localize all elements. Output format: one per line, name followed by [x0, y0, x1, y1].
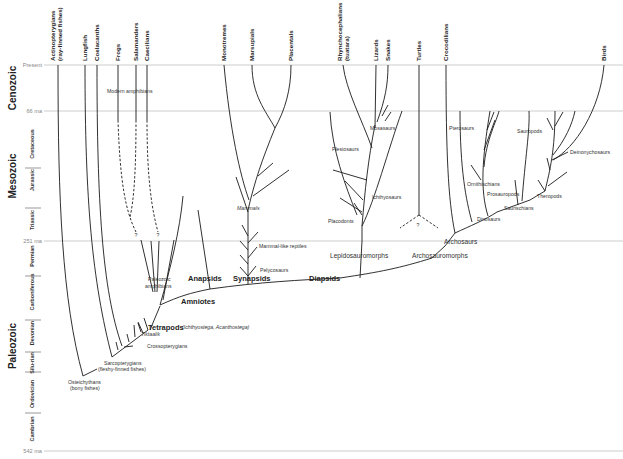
period-permian: Permian [29, 245, 35, 266]
label-plesiosaurs: Plesiosaurs [332, 146, 359, 152]
label-sauropods: Sauropods [517, 128, 542, 134]
tick-present: Present [23, 62, 43, 68]
tip-turtles: Turtles [415, 40, 422, 61]
label-prosauropods: Prosauropods [487, 191, 520, 197]
tip-lungfish: Lungfish [81, 35, 88, 61]
major-clade-labels: Tetrapods Amniotes Anapsids Synapsids Di… [148, 274, 340, 332]
lepidosaur-branches [330, 65, 402, 278]
question-mark-caecilians: ? [157, 232, 160, 238]
question-mark-frogs: ? [135, 232, 138, 238]
tetrapods-annotation: (Ichthyostega, Acanthostega) [182, 324, 250, 330]
era-paleozoic: Paleozoic [7, 323, 18, 370]
tip-birds: Birds [600, 45, 607, 61]
label-pterosaurs: Pterosaurs [449, 125, 474, 131]
clade-lepidosauromorphs: Lepidosauromorphs [330, 252, 389, 260]
tip-marsupials: Marsupials [248, 28, 255, 61]
clade-diapsids: Diapsids [309, 274, 340, 283]
label-pelycosaurs: Pelycosaurs [260, 267, 289, 273]
clade-archosauromorphs: Archosauromorphs [412, 252, 468, 260]
fish-branches [58, 65, 148, 376]
clade-amniotes: Amniotes [181, 297, 215, 306]
label-modern-amphibians: Modern amphibians [107, 88, 153, 94]
archosaur-branches [432, 65, 604, 258]
phylogeny-diagram: Present 66 ma 251 ma 542 ma Cenozoic Mes… [0, 0, 623, 459]
era-cenozoic: Cenozoic [7, 65, 18, 110]
tip-coelacanths: Coelacanths [93, 24, 100, 61]
label-ichthyosaurs: Ichthyosaurs [372, 194, 402, 200]
tip-labels: Actinopterygians (ray-finned fishes) Lun… [49, 2, 607, 61]
period-ordovician: Ordovician [29, 380, 35, 408]
tip-actinopterygians-sub: (ray-finned fishes) [56, 7, 63, 61]
period-triassic: Triassic [29, 210, 35, 230]
label-mammal-like-reptiles: Mammal-like reptiles [259, 243, 307, 249]
clade-archosaurs: Archosaurs [444, 238, 478, 245]
label-theropods: Theropods [537, 193, 562, 199]
period-carboniferous: Carboniferous [29, 274, 35, 311]
era-mesozoic: Mesozoic [7, 153, 18, 198]
period-cambrian: Cambrian [29, 417, 35, 442]
period-labels: Cretaceous Jurassic Triassic Permian Car… [29, 129, 35, 441]
label-fleshy-finned: (fleshy-finned fishes) [98, 366, 146, 372]
period-silurian: Silu-rian [29, 352, 35, 374]
tip-salamanders: Salamanders [132, 22, 139, 61]
tip-placentals: Placentals [287, 30, 294, 61]
label-tiktaalik: Tiktaalik [141, 331, 160, 337]
period-cretaceous: Cretaceous [29, 129, 35, 158]
label-mammals: Mammals [237, 205, 260, 211]
group-labels: Modern amphibians Paleozoic amphibians T… [68, 88, 610, 391]
tip-rhynchocephalians: Rhynchocephalians [336, 2, 343, 61]
label-deinonychosaurs: Deinonychosaurs [570, 149, 610, 155]
label-mosasaurs: Mosasaurs [370, 125, 396, 131]
label-crossopterygians: Crossopterygians [147, 343, 188, 349]
tip-lizards: Lizards [372, 39, 379, 61]
period-jurassic: Jurassic [29, 169, 35, 191]
clade-synapsids: Synapsids [233, 274, 271, 283]
label-placodonts: Placodonts [328, 218, 354, 224]
tip-caecilians: Caecilians [143, 30, 150, 61]
tip-frogs: Frogs [114, 43, 121, 61]
label-paleozoic: Paleozoic [148, 276, 171, 282]
tick-542ma: 542 ma [23, 448, 43, 454]
tip-snakes: Snakes [384, 39, 391, 61]
tip-actinopterygians: Actinopterygians [49, 10, 56, 61]
tick-66ma: 66 ma [26, 108, 42, 114]
label-bony-fishes: (bony fishes) [70, 385, 100, 391]
tip-crocodilians: Crocodilians [442, 23, 449, 61]
tick-251ma: 251 ma [23, 238, 43, 244]
era-labels: Cenozoic Mesozoic Paleozoic [7, 65, 18, 369]
label-ornithischians: Ornithischians [467, 181, 500, 187]
tip-monotremes: Monotremes [220, 24, 227, 61]
clade-anapsids: Anapsids [188, 274, 222, 283]
period-devonian: Devonian [29, 321, 35, 345]
amphibian-branches [118, 65, 183, 333]
question-mark-turtles: ? [417, 222, 420, 228]
label-amphibians: amphibians [145, 283, 172, 289]
label-dinosaurs: Dinosaurs [477, 216, 501, 222]
amniote-branches [160, 65, 432, 305]
label-saurischians: Saurischians [504, 205, 534, 211]
turtle-branches [400, 65, 438, 228]
tip-rhynchocephalians-sub: (tuatara) [343, 36, 350, 61]
